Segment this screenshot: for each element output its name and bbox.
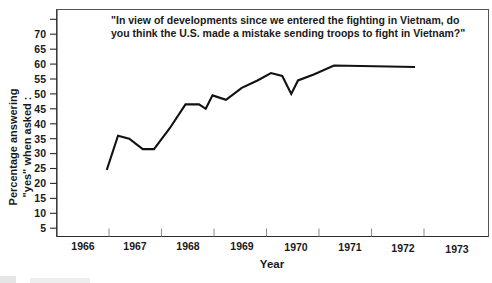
y-axis-title-line2: "yes" when asked : (21, 97, 33, 198)
y-tick-label: 45 (34, 103, 46, 115)
x-tick-label: 1970 (284, 241, 308, 253)
y-tick-label: 10 (34, 207, 46, 219)
y-tick-label: 30 (34, 147, 46, 159)
x-tick-label: 1966 (71, 240, 95, 252)
chart-title-line2: you think the U.S. made a mistake sendin… (111, 27, 465, 39)
y-tick-label: 50 (34, 88, 46, 100)
chart-title-line1: "In view of developments since we entere… (111, 14, 459, 26)
x-axis-title: Year (260, 258, 285, 270)
x-tick-label: 1969 (230, 240, 254, 252)
y-tick-label: 5 (40, 222, 46, 234)
x-tick-label: 1968 (176, 240, 200, 252)
y-tick-label: 60 (34, 58, 46, 70)
y-tick-label: 15 (34, 192, 46, 204)
y-tick-label: 55 (34, 73, 46, 85)
scan-artifact (0, 276, 16, 283)
y-tick-label: 35 (34, 133, 46, 145)
x-tick-label: 1972 (391, 242, 415, 254)
scan-artifact (30, 278, 90, 283)
x-tick-label: 1967 (123, 240, 147, 252)
y-tick-label: 25 (34, 162, 46, 174)
y-axis-title-line1: Percentage answering (7, 89, 19, 206)
y-tick-label: 70 (34, 28, 46, 40)
y-tick-label: 20 (34, 177, 46, 189)
x-tick-label: 1973 (445, 243, 469, 255)
y-tick-label: 40 (34, 118, 46, 130)
vietnam-opinion-line-chart: 5 10 15 20 25 30 35 40 45 50 55 60 65 70… (0, 0, 492, 283)
y-tick-label: 65 (34, 43, 46, 55)
x-tick-label: 1971 (338, 241, 362, 253)
chart-figure: 5 10 15 20 25 30 35 40 45 50 55 60 65 70… (0, 0, 492, 283)
chart-title: "In view of developments since we entere… (111, 14, 465, 39)
